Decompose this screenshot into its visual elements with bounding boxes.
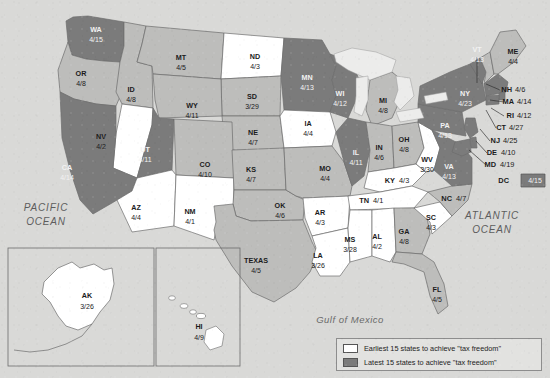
state-label-NE: NE4/7 <box>248 128 258 146</box>
side-label-MD: MD4/19 <box>485 160 515 169</box>
side-label-NJ: NJ4/25 <box>491 136 518 145</box>
side-label-RI: RI4/12 <box>507 111 532 120</box>
state-code-NM: NM <box>184 207 195 216</box>
state-code-MI: MI <box>379 96 387 105</box>
state-label-UT: UT4/11 <box>138 145 151 163</box>
side-code-MA: MA <box>503 97 515 106</box>
side-code-TN: TN <box>359 196 369 205</box>
side-code-RI: RI <box>507 111 514 120</box>
legend-label-early: Earliest 15 states to achieve "tax freed… <box>364 344 501 353</box>
side-label-CT: CT4/27 <box>496 123 523 132</box>
state-value-UT: 4/11 <box>138 156 151 163</box>
state-code-ND: ND <box>250 52 260 61</box>
state-code-NV: NV <box>96 132 106 141</box>
state-value-VA: 4/13 <box>442 173 456 180</box>
state-value-MN: 4/13 <box>300 84 314 91</box>
state-code-LA: LA <box>313 251 323 260</box>
side-value-TN: 4/1 <box>373 196 383 205</box>
legend-swatch-late <box>343 358 358 367</box>
side-code-KY: KY <box>385 176 395 185</box>
state-label-OH: OH4/8 <box>399 135 410 153</box>
state-value-OR: 4/8 <box>76 80 86 87</box>
state-label-WY: WY4/11 <box>185 101 198 119</box>
state-label-CA: CA4/14 <box>60 163 74 181</box>
state-code-HI: HI <box>195 322 202 331</box>
state-value-MS: 3/28 <box>343 246 357 253</box>
state-code-UT: UT <box>140 145 150 154</box>
state-code-VT: VT <box>472 45 482 54</box>
state-code-PA: PA <box>440 121 449 130</box>
state-code-ID: ID <box>127 85 134 94</box>
state-code-OR: OR <box>76 69 88 78</box>
ocean-label-gulf-of-mexico: Gulf of Mexico <box>316 314 384 325</box>
state-label-GA: GA4/8 <box>399 227 410 245</box>
state-value-CO: 4/10 <box>198 171 212 178</box>
state-value-OK: 4/6 <box>275 212 285 219</box>
state-value-IA: 4/4 <box>303 130 313 137</box>
state-label-NY: NY4/23 <box>458 89 472 107</box>
side-code-CT: CT <box>496 123 506 132</box>
side-code-MD: MD <box>485 160 497 169</box>
state-value-ID: 4/8 <box>126 96 136 103</box>
state-value-NY: 4/23 <box>458 100 472 107</box>
state-value-PA: 4/13 <box>438 132 452 139</box>
state-value-KS: 4/7 <box>246 176 256 183</box>
side-label-DE: DE4/10 <box>487 148 516 157</box>
state-code-OH: OH <box>399 135 410 144</box>
side-label-MA: MA4/14 <box>503 97 532 106</box>
state-label-WV: WV3/30 <box>420 155 434 173</box>
state-shape-KS[interactable] <box>232 148 286 190</box>
state-shape-DE[interactable] <box>470 137 477 148</box>
side-value-NH: 4/6 <box>515 85 525 94</box>
state-code-IN: IN <box>375 143 382 152</box>
us-map: WA4/15OR4/8ID4/8MT4/5ND4/3SD3/29WY4/11NV… <box>0 0 550 378</box>
state-label-AL: AL4/2 <box>372 232 382 250</box>
state-code-CO: CO <box>200 160 211 169</box>
side-value-KY: 4/3 <box>399 176 409 185</box>
state-code-NY: NY <box>460 89 470 98</box>
state-code-KS: KS <box>246 165 256 174</box>
side-code-NH: NH <box>501 85 512 94</box>
state-code-GA: GA <box>399 227 410 236</box>
state-value-OH: 4/8 <box>399 146 409 153</box>
state-value-GA: 4/8 <box>399 238 409 245</box>
state-value-WA: 4/15 <box>89 36 103 43</box>
state-value-IN: 4/6 <box>374 154 384 161</box>
state-value-CA: 4/14 <box>60 174 74 181</box>
state-code-TEXAS: TEXAS <box>244 256 268 265</box>
state-label-MI: MI4/8 <box>378 96 388 114</box>
us-map-svg: WA4/15OR4/8ID4/8MT4/5ND4/3SD3/29WY4/11NV… <box>0 0 550 378</box>
state-code-WA: WA <box>90 25 102 34</box>
side-code-NJ: NJ <box>491 136 500 145</box>
state-code-IL: IL <box>353 148 360 157</box>
state-code-WY: WY <box>186 101 198 110</box>
state-value-NV: 4/2 <box>96 143 106 150</box>
state-code-AZ: AZ <box>131 203 141 212</box>
state-value-MT: 4/5 <box>176 64 186 71</box>
state-label-KS: KS4/7 <box>246 165 256 183</box>
side-value-NJ: 4/25 <box>503 136 517 145</box>
state-value-SD: 3/29 <box>245 103 259 110</box>
state-code-WI: WI <box>336 89 345 98</box>
state-value-TEXAS: 4/5 <box>251 267 261 274</box>
state-value-WI: 4/12 <box>333 100 347 107</box>
state-code-AK: AK <box>82 291 93 300</box>
side-code-DE: DE <box>487 148 497 157</box>
state-label-AR: AR4/3 <box>315 208 326 226</box>
state-value-NM: 4/1 <box>185 218 195 225</box>
state-value-AK: 3/26 <box>80 303 94 310</box>
state-value-MI: 4/8 <box>378 107 388 114</box>
state-code-AR: AR <box>315 208 326 217</box>
state-value-HI: 4/9 <box>194 334 204 341</box>
state-label-ID: ID4/8 <box>126 85 136 103</box>
state-label-ND: ND4/3 <box>250 52 260 70</box>
state-shape-CO[interactable] <box>174 119 234 178</box>
state-code-CA: CA <box>62 163 72 172</box>
state-value-AL: 4/2 <box>372 243 382 250</box>
state-value-WY: 4/11 <box>185 112 198 119</box>
state-shape-CT[interactable] <box>486 95 499 105</box>
state-code-SC: SC <box>426 213 436 222</box>
legend-label-late: Latest 15 states to achieve "tax freedom… <box>364 358 497 367</box>
state-label-IN: IN4/6 <box>374 143 384 161</box>
state-value-AR: 4/3 <box>315 219 325 226</box>
